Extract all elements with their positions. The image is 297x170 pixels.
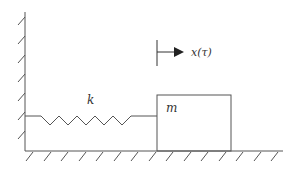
- wall: [18, 12, 25, 151]
- mass-label: m: [166, 101, 177, 115]
- floor: [25, 151, 283, 161]
- displacement-arrow-icon: [157, 40, 184, 66]
- displacement-label: x(τ): [191, 46, 212, 59]
- spring-mass-diagram: k m x(τ): [0, 0, 297, 170]
- spring: [25, 116, 157, 125]
- spring-label: k: [87, 93, 94, 107]
